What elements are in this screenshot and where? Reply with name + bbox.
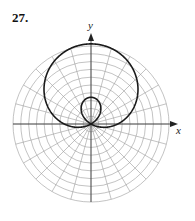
x-axis-label: x (175, 124, 181, 136)
polar-plot: x y (0, 0, 195, 221)
x-axis: x (13, 121, 181, 136)
y-axis-arrow-icon (88, 33, 94, 41)
y-axis-label: y (87, 19, 93, 31)
y-axis: y (87, 19, 94, 202)
